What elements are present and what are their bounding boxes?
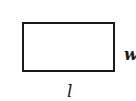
width-label: w bbox=[124, 47, 136, 63]
rectangle-shape bbox=[22, 22, 115, 72]
length-label: l bbox=[67, 83, 72, 100]
